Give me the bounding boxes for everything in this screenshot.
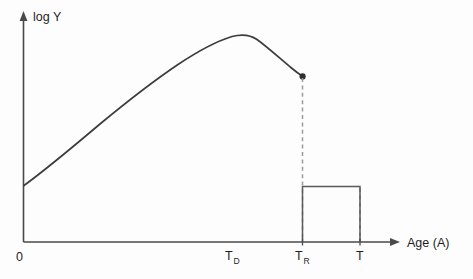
chart-figure: log Y Age (A) 0 T D T R T bbox=[0, 0, 473, 279]
y-axis-label: log Y bbox=[33, 10, 62, 24]
tick-label-t-r-sub: R bbox=[304, 256, 310, 266]
recovery-box bbox=[303, 187, 361, 242]
origin-label: 0 bbox=[16, 250, 23, 264]
tick-label-t-r-base: T bbox=[295, 249, 303, 263]
x-axis-label: Age (A) bbox=[407, 236, 449, 250]
tick-label-t-base: T bbox=[356, 249, 364, 263]
tick-label-t-d-sub: D bbox=[234, 256, 240, 266]
right-arrow-icon bbox=[390, 238, 400, 246]
tick-label-t-r: T R bbox=[295, 249, 310, 266]
up-arrow-icon bbox=[20, 11, 28, 21]
growth-curve bbox=[24, 35, 303, 186]
tick-label-t-d-base: T bbox=[225, 249, 233, 263]
tick-label-t-d: T D bbox=[225, 249, 240, 266]
tick-label-t: T bbox=[356, 249, 364, 263]
chart-canvas: log Y Age (A) 0 T D T R T bbox=[0, 0, 473, 279]
